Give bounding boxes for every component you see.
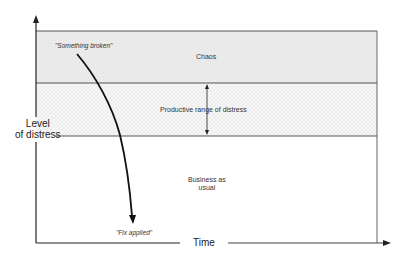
business-as-usual-label: Business as usual [188,176,226,192]
y-axis-label: Level of distress [15,118,61,140]
chaos-label: Chaos [196,53,216,61]
y-axis-arrowhead-icon [33,15,39,23]
x-axis-arrowhead-icon [383,240,391,246]
business-label-line1: Business as [188,176,226,184]
x-axis-label: Time [193,237,215,248]
y-axis-label-line2: of distress [15,129,61,140]
business-label-line2: usual [188,184,226,192]
annotation-fix-applied: "Fix applied" [116,229,152,237]
y-axis-label-line1: Level [15,118,61,129]
productive-range-label: Productive range of distress [160,106,247,114]
distress-diagram [0,0,404,258]
curve-arrowhead-icon [129,215,136,224]
annotation-something-broken: "Something broken" [55,42,112,50]
